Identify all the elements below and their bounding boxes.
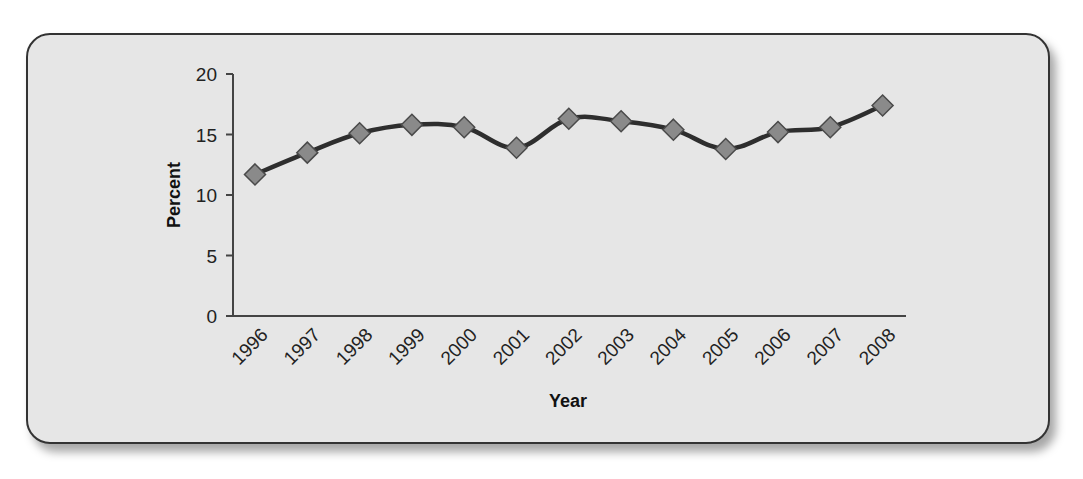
- y-tick-label: 20: [196, 64, 217, 85]
- line-chart: 05101520 1996199719981999200020012002200…: [0, 0, 1083, 479]
- x-axis-title: Year: [549, 391, 587, 411]
- y-tick-label: 5: [206, 246, 217, 267]
- y-tick-label: 10: [196, 185, 217, 206]
- diamond-marker: [715, 139, 736, 160]
- diamond-marker: [454, 117, 475, 138]
- x-tick-label: 2006: [750, 324, 795, 369]
- y-axis-ticks: 05101520: [196, 64, 233, 327]
- x-tick-label: 1998: [332, 324, 377, 369]
- x-tick-label: 2004: [646, 324, 691, 369]
- x-tick-label: 2002: [541, 324, 586, 369]
- x-tick-label: 2003: [593, 324, 638, 369]
- diamond-marker: [349, 123, 370, 144]
- x-tick-label: 1996: [227, 324, 272, 369]
- diamond-marker: [401, 114, 422, 135]
- y-tick-label: 0: [206, 306, 217, 327]
- diamond-marker: [872, 95, 893, 116]
- diamond-marker: [506, 137, 527, 158]
- diamond-marker: [663, 119, 684, 140]
- diamond-marker: [245, 164, 266, 185]
- x-tick-label: 2008: [855, 324, 900, 369]
- x-tick-label: 2000: [436, 324, 481, 369]
- x-axis-labels: 1996199719981999200020012002200320042005…: [227, 324, 899, 369]
- x-tick-label: 1999: [384, 324, 429, 369]
- x-tick-label: 2005: [698, 324, 743, 369]
- x-tick-label: 2007: [802, 324, 847, 369]
- x-tick-label: 2001: [489, 324, 534, 369]
- diamond-marker: [611, 111, 632, 132]
- diamond-marker: [820, 117, 841, 138]
- diamond-marker: [768, 122, 789, 143]
- y-tick-label: 15: [196, 125, 217, 146]
- diamond-marker: [297, 142, 318, 163]
- y-axis-title: Percent: [164, 162, 184, 228]
- x-tick-label: 1997: [279, 324, 324, 369]
- diamond-marker: [558, 108, 579, 129]
